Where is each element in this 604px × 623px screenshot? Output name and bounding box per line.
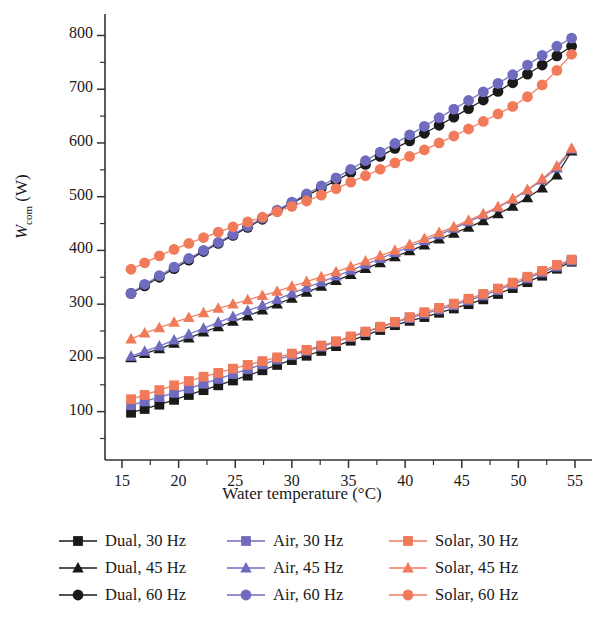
x-tick-label: 15 (102, 472, 142, 490)
data-point-triangle (566, 142, 578, 152)
data-point-square (464, 294, 474, 304)
y-axis-subscript: com (22, 206, 34, 225)
legend-entry[interactable]: Solar, 45 Hz (388, 558, 568, 578)
series-line (131, 260, 572, 400)
x-tick-label: 40 (385, 472, 425, 490)
legend-entry[interactable]: Solar, 30 Hz (388, 531, 568, 551)
legend-entry[interactable]: Dual, 30 Hz (58, 531, 226, 551)
data-point-triangle (125, 333, 137, 343)
data-point-triangle (433, 227, 445, 237)
legend-marker (240, 561, 252, 571)
legend-entry[interactable]: Dual, 45 Hz (58, 558, 226, 578)
data-point-square (316, 341, 326, 351)
data-point-circle (537, 80, 548, 91)
data-point-square (537, 266, 547, 276)
legend-entry[interactable]: Air, 45 Hz (226, 558, 388, 578)
data-point-circle (566, 49, 577, 60)
legend-marker-square-icon (226, 533, 266, 549)
data-point-circle (331, 183, 342, 194)
data-point-square (508, 278, 518, 288)
data-point-circle (404, 151, 415, 162)
data-point-square (228, 364, 238, 374)
data-point-triangle (492, 201, 504, 211)
legend-entry[interactable]: Air, 60 Hz (226, 585, 388, 605)
legend-label: Solar, 30 Hz (435, 531, 518, 551)
y-tick-label: 100 (47, 401, 93, 419)
data-point-triangle (522, 184, 534, 194)
data-point-circle (198, 232, 209, 243)
data-point-triangle (212, 316, 224, 326)
data-point-circle (183, 238, 194, 249)
data-point-circle (463, 124, 474, 135)
y-tick-label: 700 (47, 78, 93, 96)
data-point-triangle (198, 322, 210, 332)
data-point-triangle (240, 561, 252, 571)
data-point-triangle (154, 340, 166, 350)
data-point-circle (463, 95, 474, 106)
data-point-circle (169, 262, 180, 273)
data-point-triangle (507, 193, 519, 203)
series-lines (131, 38, 572, 413)
data-point-square (184, 376, 194, 386)
data-point-circle (434, 112, 445, 123)
data-point-square (272, 352, 282, 362)
data-point-square (346, 332, 356, 342)
data-point-triangle (72, 561, 84, 571)
data-point-square (243, 360, 253, 370)
legend-marker-triangle-icon (388, 560, 428, 576)
data-point-circle (522, 60, 533, 71)
legend-entry[interactable]: Air, 30 Hz (226, 531, 388, 551)
data-point-square (493, 284, 503, 294)
data-point-square (302, 345, 312, 355)
legend-label: Air, 30 Hz (273, 531, 343, 551)
legend-entry[interactable]: Solar, 60 Hz (388, 585, 568, 605)
data-point-circle (360, 170, 371, 181)
data-point-square (213, 368, 223, 378)
data-point-square (449, 299, 459, 309)
data-point-circle (228, 221, 239, 232)
legend-label: Air, 45 Hz (273, 558, 343, 578)
data-point-circle (375, 164, 386, 175)
legend-marker-square-icon (58, 533, 98, 549)
data-point-square (478, 289, 488, 299)
data-point-square (199, 372, 209, 382)
data-point-square (154, 385, 164, 395)
data-point-circle (286, 201, 297, 212)
data-point-triangle (419, 233, 431, 243)
data-point-circle (537, 50, 548, 61)
data-point-circle (198, 245, 209, 256)
data-point-circle (390, 138, 401, 149)
data-point-circle (419, 145, 430, 156)
data-point-square (241, 536, 251, 546)
data-point-square (434, 303, 444, 313)
data-point-square (405, 312, 415, 322)
data-point-circle (493, 109, 504, 120)
data-point-triangle (389, 244, 401, 254)
data-point-circle (213, 237, 224, 248)
legend-entry[interactable]: Dual, 60 Hz (58, 585, 226, 605)
y-tick-label: 300 (47, 293, 93, 311)
data-point-square (169, 380, 179, 390)
data-point-circle (139, 257, 150, 268)
series-marker-group (126, 33, 577, 299)
data-point-triangle (536, 173, 548, 183)
x-tick-label: 25 (215, 472, 255, 490)
x-tick-label: 45 (442, 472, 482, 490)
data-point-circle (126, 288, 137, 299)
data-point-square (361, 327, 371, 337)
data-point-square (403, 536, 413, 546)
data-point-circle (390, 157, 401, 168)
data-point-circle (551, 41, 562, 52)
legend-marker (403, 589, 414, 600)
data-point-circle (183, 253, 194, 264)
data-point-circle (213, 227, 224, 238)
legend: Dual, 30 HzAir, 30 HzSolar, 30 HzDual, 4… (58, 527, 598, 608)
legend-marker (241, 589, 252, 600)
data-point-circle (419, 121, 430, 132)
data-point-circle (345, 164, 356, 175)
legend-marker (73, 536, 83, 546)
figure-container: Wcom (W) Water temperature (°C) 10020030… (0, 0, 604, 623)
data-point-circle (154, 270, 165, 281)
data-point-circle (242, 217, 253, 228)
y-axis-symbol: W (12, 225, 31, 239)
